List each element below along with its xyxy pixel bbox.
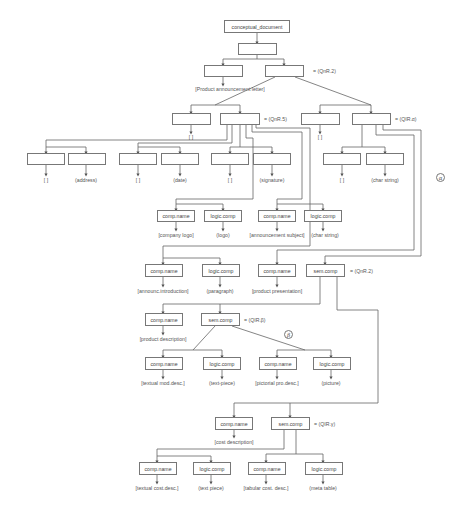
- node-label: [cost description]: [215, 439, 254, 445]
- node-conceptual-document: conceptual_document: [224, 20, 290, 33]
- diagram-canvas: conceptual_document = (QnR.2) [Product a…: [0, 0, 464, 510]
- node-r3: [161, 153, 199, 165]
- node-comp-name: comp.name: [215, 417, 253, 430]
- node-r3: [253, 153, 291, 165]
- node-label: [textual mod.desc.]: [141, 380, 185, 386]
- node-comp-name: comp.name: [258, 264, 296, 277]
- node-label: (address): [75, 177, 97, 183]
- node-label: [ ]: [189, 134, 193, 140]
- node-label: [announcement subject]: [249, 232, 304, 238]
- node-comp-name: comp.name: [139, 462, 177, 475]
- node-label: [ ]: [318, 134, 322, 140]
- node-logic-comp: logic.comp: [304, 210, 342, 222]
- node-label: (date): [173, 177, 187, 183]
- alpha-marker: α: [436, 173, 445, 182]
- node-label: (picture): [321, 380, 340, 386]
- node-sem-comp: sem.comp: [201, 313, 240, 326]
- node-label: [Product announcement letter]: [195, 86, 265, 92]
- relation-label: = (QIR.γ): [314, 421, 335, 427]
- node-r3: [68, 153, 106, 165]
- node-comp-name: comp.name: [248, 462, 286, 475]
- node-label: [textual cost.desc.]: [136, 485, 179, 491]
- node-logic-comp: logic.comp: [313, 357, 351, 370]
- node-label: [tabular cost. desc.]: [244, 485, 289, 491]
- relation-label: = (QnR.2): [313, 68, 336, 74]
- node-sem-comp: sem.comp: [271, 417, 310, 430]
- node-r2-b: [220, 113, 260, 125]
- node-label: [company logo]: [158, 232, 193, 238]
- node-r3: [27, 153, 65, 165]
- node-r2-c: [301, 113, 340, 125]
- node-label: (text piece): [198, 485, 224, 491]
- node-label: (logo): [216, 232, 229, 238]
- node-label: (paragraph): [206, 288, 233, 294]
- node-logic-comp: logic.comp: [202, 264, 240, 277]
- node-sem-comp: sem.comp: [306, 264, 345, 277]
- node-r3: [119, 153, 157, 165]
- node-label: (text-piece): [209, 380, 235, 386]
- node-comp-name: comp.name: [157, 210, 195, 222]
- node-comp-name: comp.name: [259, 357, 297, 370]
- node-logic-comp: logic.comp: [193, 462, 231, 475]
- node-label: [ ]: [228, 177, 232, 183]
- node-logic-comp: logic.comp: [203, 357, 241, 370]
- node-r1-right: [265, 65, 304, 77]
- node-r1-left: [204, 65, 243, 77]
- node-label: [ ]: [44, 177, 48, 183]
- node-label: (char string): [371, 177, 399, 183]
- node-label: (char string): [311, 232, 339, 238]
- node-comp-name: comp.name: [145, 357, 183, 370]
- relation-label: = (QnR.5): [264, 116, 287, 122]
- node-label: [announc.introduction]: [137, 288, 188, 294]
- beta-marker: β: [284, 330, 293, 339]
- node-r3: [366, 153, 404, 165]
- node-label: (signature): [260, 177, 285, 183]
- node-comp-name: comp.name: [145, 313, 183, 326]
- node-comp-name: comp.name: [258, 210, 296, 222]
- node-label: [product description]: [140, 336, 187, 342]
- node-label: [product presentation]: [252, 288, 302, 294]
- node-comp-name: comp.name: [145, 264, 183, 277]
- node-r2-a: [172, 113, 211, 125]
- relation-label: = (QIR.α): [395, 116, 417, 122]
- node-logic-comp: logic.comp: [204, 210, 242, 222]
- node-label: [pictorial pro.desc.]: [255, 380, 299, 386]
- node-label: [ ]: [136, 177, 140, 183]
- node-label: (meta table): [309, 485, 337, 491]
- relation-label: = (QnR.2): [350, 268, 373, 274]
- node-level1: [238, 43, 277, 55]
- node-r3: [323, 153, 361, 165]
- relation-label: = (QIR.β): [244, 317, 266, 323]
- node-r2-d: [352, 113, 391, 125]
- node-r3: [211, 153, 249, 165]
- node-logic-comp: logic.comp: [305, 462, 343, 475]
- node-label: [ ]: [340, 177, 344, 183]
